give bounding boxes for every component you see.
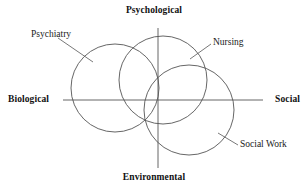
axis-label-environmental: Environmental — [123, 173, 185, 183]
circle-label-psychiatry: Psychiatry — [31, 30, 71, 40]
circle-social-work — [144, 65, 234, 155]
axis-label-social: Social — [275, 95, 300, 105]
circle-nursing — [119, 36, 207, 124]
social-work-leader-line — [218, 133, 238, 145]
circle-psychiatry — [71, 44, 159, 132]
circle-label-social-work: Social Work — [240, 140, 287, 150]
psychiatry-leader-line — [58, 38, 93, 62]
axis-label-biological: Biological — [8, 95, 49, 105]
axis-label-psychological: Psychological — [126, 6, 182, 16]
venn-diagram-figure: Psychological Biological Social Environm… — [0, 0, 308, 191]
circle-label-nursing: Nursing — [213, 38, 244, 48]
